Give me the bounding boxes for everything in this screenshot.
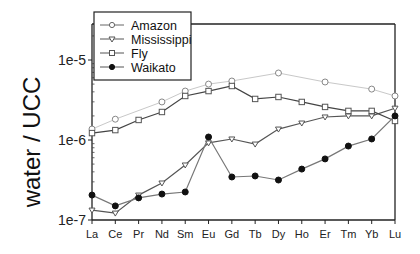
filled-circle-marker-icon xyxy=(112,203,118,209)
open-square-marker-icon xyxy=(136,117,141,122)
filled-circle-marker-icon xyxy=(109,64,114,69)
series-layer xyxy=(89,70,398,216)
open-square-marker-icon xyxy=(346,108,351,113)
x-tick-label: Tm xyxy=(340,228,356,240)
open-square-marker-icon xyxy=(89,130,94,135)
x-tick-label: Yb xyxy=(365,228,378,240)
filled-circle-marker-icon xyxy=(206,134,212,140)
x-tick-label: Gd xyxy=(225,228,240,240)
open-square-marker-icon xyxy=(252,96,257,101)
x-axis-ticks: LaCePrNdSmEuGdTbDyHoErTmYbLu xyxy=(86,220,401,240)
filled-circle-marker-icon xyxy=(229,174,235,180)
filled-circle-marker-icon xyxy=(345,143,351,149)
open-square-marker-icon xyxy=(110,51,115,56)
legend: Amazon Mississippi Fly Waikato xyxy=(94,12,191,80)
filled-circle-marker-icon xyxy=(392,113,398,119)
open-triangle-marker-icon xyxy=(252,142,258,147)
filled-circle-marker-icon xyxy=(136,195,142,201)
filled-circle-marker-icon xyxy=(299,166,305,172)
series-line xyxy=(92,116,395,206)
filled-circle-marker-icon xyxy=(369,136,375,142)
open-triangle-marker-icon xyxy=(275,127,281,132)
filled-circle-marker-icon xyxy=(159,191,165,197)
open-square-marker-icon xyxy=(276,94,281,99)
ree-pattern-chart: 1e-71e-61e-5 LaCePrNdSmEuGdTbDyHoErTmYbL… xyxy=(0,0,420,254)
series-waikato xyxy=(89,113,398,209)
legend-label: Fly xyxy=(131,47,148,61)
y-tick-label: 1e-7 xyxy=(58,212,86,228)
x-tick-label: Pr xyxy=(133,228,144,240)
x-tick-label: Lu xyxy=(389,228,401,240)
open-square-marker-icon xyxy=(322,104,327,109)
x-tick-label: Dy xyxy=(272,228,286,240)
open-triangle-marker-icon xyxy=(112,211,118,216)
x-tick-label: La xyxy=(86,228,99,240)
legend-label: Waikato xyxy=(131,61,176,75)
open-circle-marker-icon xyxy=(112,116,118,122)
x-tick-label: Ce xyxy=(108,228,122,240)
y-axis-label: water / UCC xyxy=(18,77,45,209)
filled-circle-marker-icon xyxy=(275,177,281,183)
x-tick-label: Tb xyxy=(249,228,262,240)
open-square-marker-icon xyxy=(206,88,211,93)
open-square-marker-icon xyxy=(159,109,164,114)
open-circle-marker-icon xyxy=(322,79,328,85)
x-tick-label: Er xyxy=(320,228,331,240)
y-tick-label: 1e-5 xyxy=(58,52,86,68)
open-circle-marker-icon xyxy=(109,22,114,27)
filled-circle-marker-icon xyxy=(322,156,328,162)
legend-label: Amazon xyxy=(131,19,177,33)
legend-label: Mississippi xyxy=(131,33,191,47)
filled-circle-marker-icon xyxy=(252,173,258,179)
series-fly xyxy=(89,83,397,135)
open-circle-marker-icon xyxy=(159,99,165,105)
x-tick-label: Sm xyxy=(177,228,194,240)
open-square-marker-icon xyxy=(113,127,118,132)
open-circle-marker-icon xyxy=(369,86,375,92)
x-tick-label: Eu xyxy=(202,228,215,240)
open-circle-marker-icon xyxy=(392,93,398,99)
open-circle-marker-icon xyxy=(206,81,212,87)
open-square-marker-icon xyxy=(369,108,374,113)
open-square-marker-icon xyxy=(183,93,188,98)
filled-circle-marker-icon xyxy=(182,189,188,195)
open-circle-marker-icon xyxy=(275,70,281,76)
x-tick-label: Ho xyxy=(295,228,309,240)
filled-circle-marker-icon xyxy=(89,192,95,198)
open-square-marker-icon xyxy=(229,83,234,88)
open-square-marker-icon xyxy=(299,99,304,104)
y-tick-label: 1e-6 xyxy=(58,132,86,148)
x-tick-label: Nd xyxy=(155,228,169,240)
